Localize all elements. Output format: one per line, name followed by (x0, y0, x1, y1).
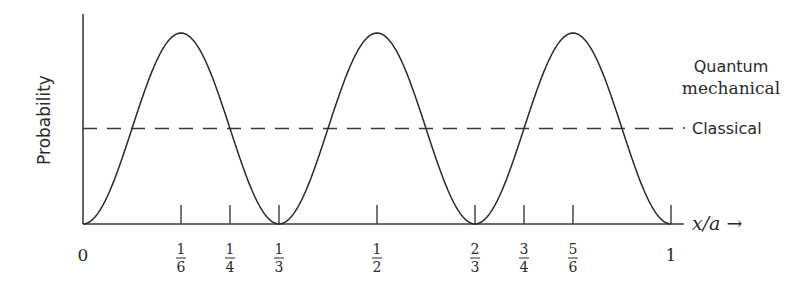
svg-text:1: 1 (666, 245, 677, 265)
x-axis-label: x/a → (692, 212, 742, 234)
x-ticks (181, 205, 671, 224)
svg-text:0: 0 (78, 245, 89, 265)
svg-text:4: 4 (520, 259, 529, 275)
probability-chart: 0161413122334561 Probability x/a → Quant… (0, 0, 804, 291)
x-tick-label: 12 (372, 241, 382, 275)
svg-text:4: 4 (226, 259, 235, 275)
x-tick-label: 14 (225, 241, 235, 275)
x-tick-label: 1 (666, 245, 677, 265)
svg-text:1: 1 (177, 241, 186, 257)
svg-text:6: 6 (569, 259, 578, 275)
quantum-label-line1: Quantum (694, 57, 769, 76)
svg-text:2: 2 (373, 259, 382, 275)
x-tick-label: 13 (274, 241, 284, 275)
quantum-label-line2: mechanical (682, 78, 780, 98)
x-tick-label: 0 (78, 245, 89, 265)
svg-text:1: 1 (373, 241, 382, 257)
svg-text:6: 6 (177, 259, 186, 275)
axes (83, 14, 684, 224)
svg-text:3: 3 (520, 241, 529, 257)
svg-text:1: 1 (226, 241, 235, 257)
x-tick-label: 16 (176, 241, 186, 275)
x-tick-label: 34 (519, 241, 529, 275)
svg-text:3: 3 (275, 259, 284, 275)
classical-leader-dot (683, 127, 685, 129)
x-tick-label: 56 (568, 241, 578, 275)
x-tick-label: 23 (470, 241, 480, 275)
y-axis-label: Probability (34, 75, 54, 165)
svg-text:3: 3 (471, 259, 480, 275)
svg-text:2: 2 (471, 241, 480, 257)
classical-label: Classical (692, 119, 762, 138)
svg-text:5: 5 (569, 241, 578, 257)
x-tick-labels: 0161413122334561 (78, 241, 677, 275)
svg-text:1: 1 (275, 241, 284, 257)
